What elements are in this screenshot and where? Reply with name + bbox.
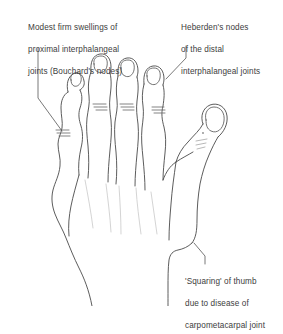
index-finger-left-edge [142, 84, 145, 190]
heberden-line-2: of the distal [181, 44, 281, 55]
middle-finger-left-edge [115, 76, 118, 184]
joint-swelling-hatch-ring [93, 104, 107, 110]
joint-swelling-hatch-little [56, 130, 70, 136]
bouchard-line-1: Modest firm swellings of [28, 22, 148, 33]
thumb-left-edge [176, 124, 203, 162]
thenar-crease [169, 162, 176, 240]
bouchard-nodes-label: Modest firm swellings of proximal interp… [28, 11, 148, 88]
thumb-right-edge [192, 137, 218, 243]
squaring-line-1: 'Squaring' of thumb [185, 276, 283, 287]
joint-swelling-hatch-middle [120, 104, 134, 110]
thumb-nail [205, 107, 224, 132]
ring-finger-right-edge [108, 73, 111, 182]
squaring-line-2: due to disease of [185, 298, 283, 309]
little-finger-right-edge [79, 90, 83, 175]
heberden-line-3: interphalangeal joints [181, 66, 281, 77]
dorsum-tendon-lines [85, 180, 157, 234]
index-finger-right-edge [162, 85, 166, 180]
middle-finger-right-edge [135, 77, 138, 186]
hand-outline-left [52, 92, 92, 306]
thumb-joint-creases [196, 132, 207, 149]
bouchard-line-3: joints (Bouchard's nodes) [28, 66, 148, 77]
fifth-metacarpal-edge [69, 175, 79, 236]
heberden-line-1: Heberden's nodes [181, 22, 281, 33]
bouchard-line-2: proximal interphalangeal [28, 44, 148, 55]
squaring-line-3: carpometacarpal joint [185, 320, 283, 331]
heberden-nodes-label: Heberden's nodes of the distal interphal… [181, 11, 281, 88]
index-finger-nail [147, 68, 160, 85]
leader-line-squaring [194, 243, 205, 264]
squaring-thumb-label: 'Squaring' of thumb due to disease of ca… [185, 265, 283, 334]
joint-swelling-hatch-index [152, 107, 165, 113]
